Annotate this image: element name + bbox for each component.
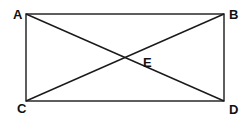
label-a: A	[13, 7, 23, 22]
label-e: E	[143, 55, 152, 70]
rectangle-diagram: A B C D E	[0, 0, 249, 119]
label-c: C	[17, 101, 27, 116]
label-b: B	[229, 7, 238, 22]
label-d: D	[229, 102, 238, 117]
